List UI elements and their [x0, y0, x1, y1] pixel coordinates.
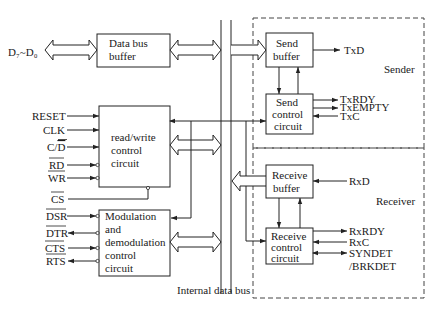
rd-label: RD — [49, 159, 64, 171]
dsr-label: DSR — [46, 210, 68, 222]
modem-label-2: and — [105, 223, 121, 235]
rw-control-label-1: read/write — [111, 131, 156, 143]
cs-line — [68, 190, 148, 200]
receive-buffer-label-1: Receive — [272, 169, 308, 181]
rts-label: RTS — [46, 255, 66, 267]
dsr-bubble — [96, 214, 99, 217]
dtr-bubble — [96, 231, 99, 234]
double-arrow-data-pins — [45, 40, 97, 60]
wr-active-low-bubble — [96, 176, 99, 179]
rxd-label: RxD — [349, 175, 370, 187]
control-line-to-modem — [171, 121, 191, 218]
data-bus-buffer-label-2: buffer — [109, 50, 136, 62]
cd-label: C/D — [47, 141, 65, 153]
send-control-label-3: circuit — [274, 120, 302, 132]
modem-label-5: circuit — [105, 262, 133, 274]
receive-control-label-3: circuit — [271, 252, 299, 264]
double-arrow-modem-bus — [170, 232, 221, 252]
txc-label: TxC — [340, 110, 360, 122]
dtr-label: DTR — [46, 227, 69, 239]
send-control-label-2: control — [272, 108, 303, 120]
reset-label: RESET — [32, 110, 66, 122]
receiver-label: Receiver — [376, 195, 415, 207]
data-bus-buffer-label-1: Data bus — [109, 37, 148, 49]
syndet-label: SYNDET — [349, 247, 393, 259]
clk-label: CLK — [43, 124, 65, 136]
modem-label-1: Modulation — [105, 210, 157, 222]
receive-buffer-label-2: buffer — [273, 182, 300, 194]
double-arrow-buffer-bus — [170, 40, 221, 60]
rd-active-low-bubble — [96, 163, 99, 166]
wr-label: WR — [48, 172, 66, 184]
txd-label: TxD — [344, 44, 364, 56]
usart-block-diagram: Sender Receiver Internal data bus D₇~D₀ … — [0, 0, 438, 313]
cs-label: CS — [51, 193, 64, 205]
rw-control-label-2: control — [111, 144, 142, 156]
rts-bubble — [96, 259, 99, 262]
cs-active-low-bubble — [146, 186, 149, 189]
cts-label: CTS — [45, 242, 65, 254]
cts-bubble — [96, 246, 99, 249]
send-control-label-1: Send — [276, 96, 299, 108]
double-arrow-rw-bus — [170, 135, 221, 155]
brkdet-label: /BRKDET — [349, 260, 396, 272]
arrow-bus-to-send-buffer — [231, 40, 266, 60]
send-buffer-label-2: buffer — [273, 50, 300, 62]
data-pins-label: D₇~D₀ — [8, 46, 38, 58]
modem-label-4: control — [105, 249, 136, 261]
modem-label-3: demodulation — [105, 236, 166, 248]
sender-label: Sender — [384, 63, 415, 75]
arrow-receive-buffer-to-bus — [232, 171, 266, 191]
rw-control-label-3: circuit — [111, 157, 139, 169]
internal-bus-label: Internal data bus — [177, 284, 250, 296]
send-buffer-label-1: Send — [276, 37, 299, 49]
